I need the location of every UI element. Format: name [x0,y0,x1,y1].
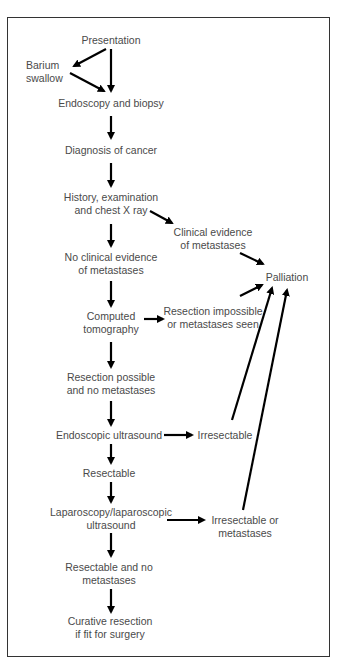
node-resectable-no-metastases: Resectable and nometastases [65,561,153,587]
node-computed-tomography: Computedtomography [83,310,138,336]
node-presentation: Presentation [82,34,141,47]
node-resectable: Resectable [83,467,136,480]
node-palliation: Palliation [266,271,309,284]
node-clinical-metastases: Clinical evidenceof metastases [174,226,253,252]
node-irresectable-or-metastases: Irresectable ormetastases [211,514,278,540]
node-resection-possible: Resection possibleand no metastases [67,371,156,397]
node-curative-resection: Curative resectionif fit for surgery [68,615,153,641]
node-endoscopy-biopsy: Endoscopy and biopsy [58,97,164,110]
node-endoscopic-ultrasound: Endoscopic ultrasound [56,429,162,442]
node-history: History, examinationand chest X ray [64,191,158,217]
node-irresectable: Irresectable [198,429,253,442]
node-no-clinical-evidence: No clinical evidenceof metastases [65,251,158,277]
node-barium-swallow: Bariumswallow [26,59,63,85]
node-laparoscopy: Laparoscopy/laparoscopicultrasound [50,506,172,532]
node-diagnosis: Diagnosis of cancer [65,144,157,157]
node-resection-impossible: Resection impossibleor metastases seen [163,305,262,331]
